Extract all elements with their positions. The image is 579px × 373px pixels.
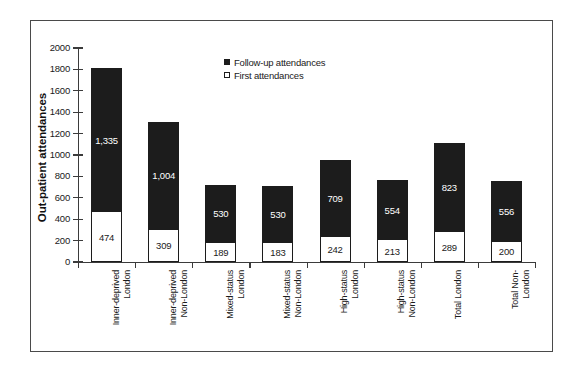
y-tick-label: 0 [36,256,70,267]
legend-item-followup: Follow-up attendances [224,56,325,68]
bar-group: 1,335474 [91,48,122,262]
y-tick-label: 200 [36,235,70,246]
bar-value-label-followup: 556 [491,206,522,217]
bar-group: 554213 [377,48,408,262]
legend-swatch-first-icon [224,72,230,78]
bar-group: 823289 [434,48,465,262]
x-tick [249,262,250,268]
x-category-label: Inner-deprived London [111,270,132,360]
x-tick [192,262,193,268]
x-tick [78,262,79,268]
bar-value-label-first: 474 [91,232,122,243]
bar-value-label-first: 213 [377,246,408,257]
legend-item-first: First attendances [224,69,325,81]
x-tick [478,262,479,268]
x-category-label: Mixed-status London [225,270,246,360]
bar-group: 556200 [491,48,522,262]
chart-legend: Follow-up attendances First attendances [224,56,325,82]
y-tick-label: 2000 [36,42,70,53]
x-tick [135,262,136,268]
bar-value-label-followup: 709 [320,193,351,204]
x-category-label: High-status Non-London [396,270,417,360]
bar-value-label-followup: 530 [262,209,293,220]
bar-value-label-first: 200 [491,246,522,257]
x-category-label: Inner-deprived Non-London [168,270,189,360]
x-category-label: Mixed-status Non-London [282,270,303,360]
legend-swatch-followup-icon [224,59,230,65]
bar-value-label-first: 189 [205,247,236,258]
bar-value-label-followup: 530 [205,208,236,219]
y-tick-label: 1000 [36,149,70,160]
y-tick-label: 1400 [36,106,70,117]
y-tick-label: 1800 [36,63,70,74]
bar-value-label-first: 289 [434,242,465,253]
y-tick-label: 600 [36,192,70,203]
bar-value-label-first: 309 [148,240,179,251]
x-tick [421,262,422,268]
x-tick [307,262,308,268]
chart-figure: Out-patient attendances 0200400600800100… [0,0,579,373]
bar-value-label-followup: 823 [434,182,465,193]
x-category-label: Total London [453,270,464,360]
x-tick [364,262,365,268]
x-category-label: High-status London [339,270,360,360]
y-tick-label: 800 [36,170,70,181]
x-category-label: Total Non- London [510,270,531,360]
legend-label-first: First attendances [234,70,303,81]
bar-value-label-followup: 1,335 [91,135,122,146]
bar-value-label-followup: 554 [377,205,408,216]
bar-value-label-first: 183 [262,247,293,258]
bar-value-label-first: 242 [320,244,351,255]
bar-value-label-followup: 1,004 [148,170,179,181]
y-tick-label: 400 [36,213,70,224]
legend-label-followup: Follow-up attendances [234,57,325,68]
x-tick [535,262,536,268]
bar-group: 1,004309 [148,48,179,262]
y-tick-label: 1200 [36,128,70,139]
y-tick-label: 1600 [36,85,70,96]
